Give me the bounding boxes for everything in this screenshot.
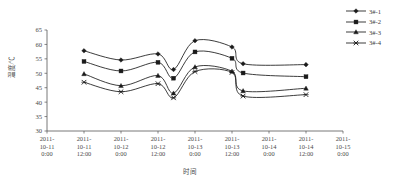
legend-marker-icon — [345, 27, 367, 37]
x-tick-label: 2011-10-1212:00 — [139, 135, 177, 158]
x-tick-label: 2011-10-1112:00 — [65, 135, 103, 158]
legend-label: 3#-2 — [369, 18, 381, 25]
series-line — [84, 65, 306, 93]
data-point — [171, 96, 176, 101]
legend-marker-icon — [345, 17, 367, 27]
y-tick-label: 55 — [26, 55, 42, 62]
series-3#-4 — [81, 69, 308, 100]
y-tick-label: 30 — [26, 127, 42, 134]
x-tick-label: 2011-10-1312:00 — [213, 135, 251, 158]
legend-item-3#-2[interactable]: 3#-2 — [345, 17, 409, 28]
y-tick-label: 50 — [26, 70, 42, 77]
data-point — [193, 38, 198, 43]
legend-marker-icon — [345, 38, 367, 48]
data-series-group — [81, 38, 308, 100]
legend-label: 3#-4 — [369, 39, 381, 46]
legend-item-3#-1[interactable]: 3#-1 — [345, 6, 409, 17]
x-tick-label: 2011-10-110:00 — [28, 135, 66, 158]
legend-item-3#-4[interactable]: 3#-4 — [345, 38, 409, 49]
data-point — [303, 92, 308, 97]
x-tick-label: 2011-10-140:00 — [250, 135, 288, 158]
data-point — [119, 58, 124, 63]
data-point — [82, 59, 86, 63]
data-point — [193, 50, 197, 54]
data-point — [240, 94, 245, 99]
data-point — [304, 75, 308, 79]
x-axis-title: 时间 — [155, 166, 225, 176]
data-point — [241, 61, 246, 66]
data-point — [82, 48, 87, 53]
axis-group — [47, 30, 343, 131]
x-tick-label: 2011-10-1412:00 — [287, 135, 325, 158]
data-point — [82, 72, 87, 76]
y-tick-label: 65 — [26, 26, 42, 33]
legend-marker — [353, 40, 358, 45]
data-point — [304, 62, 309, 67]
data-point — [156, 52, 161, 57]
data-point — [192, 69, 197, 74]
y-tick-label: 45 — [26, 84, 42, 91]
data-point — [230, 56, 234, 60]
legend-label: 3#-1 — [369, 8, 381, 15]
series-3#-3 — [82, 65, 309, 95]
x-tick-label: 2011-10-120:00 — [102, 135, 140, 158]
x-tick-label: 2011-10-150:00 — [324, 135, 362, 158]
temperature-line-chart: 温度/℃ 时间 3035404550556065 2011-10-110:002… — [0, 0, 413, 185]
legend-label: 3#-3 — [369, 29, 381, 36]
data-point — [118, 89, 123, 94]
y-tick-label: 35 — [26, 113, 42, 120]
legend-marker — [354, 20, 358, 24]
legend-marker-icon — [345, 6, 367, 16]
data-point — [156, 60, 160, 64]
data-point — [119, 69, 123, 73]
data-point — [81, 80, 86, 85]
legend-marker — [354, 9, 359, 14]
series-line — [84, 69, 306, 98]
data-point — [172, 76, 176, 80]
chart-legend: 3#-13#-23#-33#-4 — [345, 6, 409, 48]
data-point — [155, 81, 160, 86]
y-tick-label: 60 — [26, 41, 42, 48]
y-tick-label: 40 — [26, 99, 42, 106]
data-point — [241, 71, 245, 75]
legend-item-3#-3[interactable]: 3#-3 — [345, 27, 409, 38]
y-axis-title: 温度/℃ — [6, 47, 16, 87]
x-tick-label: 2011-10-130:00 — [176, 135, 214, 158]
